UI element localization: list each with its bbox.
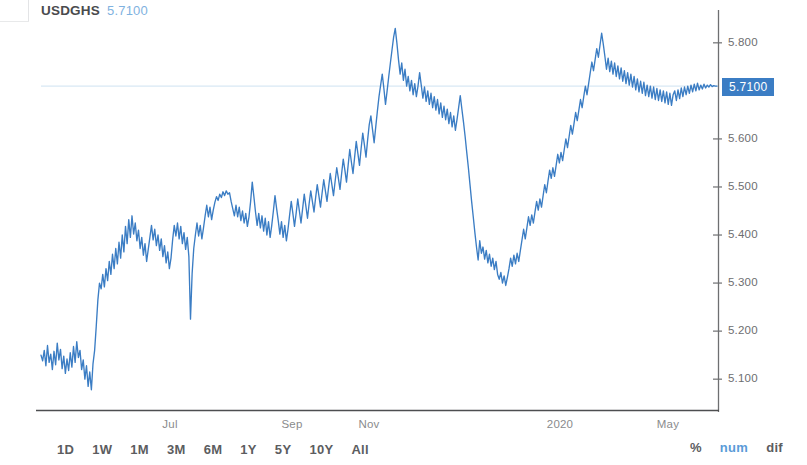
plot-area[interactable]: 5.8005.6005.5005.4005.3005.2005.100 JulS… <box>0 0 807 465</box>
range-button-3m[interactable]: 3M <box>167 440 186 459</box>
x-axis-tick-label: 2020 <box>547 418 573 430</box>
x-axis-tick-label: Nov <box>358 418 379 430</box>
mode-button-percent[interactable]: % <box>690 440 702 455</box>
chart-toolbar: 1D1W1M3M6M1Y5Y10YAll %numdif <box>0 440 807 465</box>
display-mode-buttons: %numdif <box>672 440 783 455</box>
range-button-1y[interactable]: 1Y <box>240 440 257 459</box>
range-button-6m[interactable]: 6M <box>204 440 223 459</box>
y-axis-tick-label: 5.800 <box>728 36 758 48</box>
range-button-1m[interactable]: 1M <box>130 440 149 459</box>
x-axis-tick-label: Jul <box>162 418 177 430</box>
range-button-5y[interactable]: 5Y <box>275 440 292 459</box>
y-axis-tick-label: 5.200 <box>728 324 758 336</box>
range-button-1d[interactable]: 1D <box>57 440 74 459</box>
time-range-buttons: 1D1W1M3M6M1Y5Y10YAll <box>57 440 369 459</box>
mode-button-dif[interactable]: dif <box>766 440 783 455</box>
y-axis-tick-label: 5.400 <box>728 228 758 240</box>
current-price-tag: 5.7100 <box>722 78 774 96</box>
range-button-1w[interactable]: 1W <box>92 440 112 459</box>
mode-button-num[interactable]: num <box>720 440 748 455</box>
x-axis-tick-label: May <box>657 418 679 430</box>
y-axis-ticks <box>713 43 722 379</box>
y-axis-tick-label: 5.500 <box>728 180 758 192</box>
range-button-10y[interactable]: 10Y <box>309 440 333 459</box>
y-axis-tick-label: 5.100 <box>728 372 758 384</box>
chart-app: USDGHS 5.7100 5.8005.6005.5005.4005.3005… <box>0 0 807 465</box>
x-axis-tick-label: Sep <box>281 418 302 430</box>
price-line-series <box>41 28 717 389</box>
range-button-all[interactable]: All <box>351 440 369 459</box>
y-axis-tick-label: 5.600 <box>728 132 758 144</box>
y-axis-tick-label: 5.300 <box>728 276 758 288</box>
price-chart-svg <box>0 0 807 465</box>
